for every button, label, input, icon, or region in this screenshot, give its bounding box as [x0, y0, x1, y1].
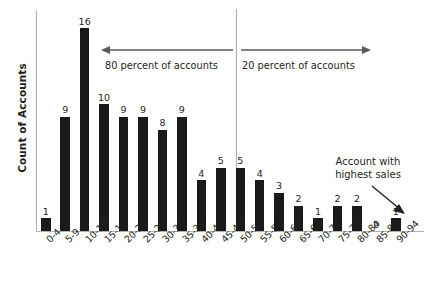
bar-20-24: [119, 117, 129, 231]
y-axis-title: Count of Accounts: [16, 48, 28, 188]
twenty-percent-arrow-icon: [241, 46, 371, 54]
bar-value-0-4: 1: [36, 206, 56, 217]
bar-value-30-34: 8: [152, 117, 172, 128]
bar-value-80-84: 2: [347, 193, 367, 204]
bar-value-25-29: 9: [133, 104, 153, 115]
bar-value-40-44: 4: [191, 168, 211, 179]
bar-value-50-54: 5: [230, 155, 250, 166]
bar-chart: Count of Accounts 80 percent of accounts…: [0, 0, 430, 281]
bar-15-19: [99, 104, 109, 231]
highest-sales-callout-line1: Account with: [313, 156, 423, 169]
bar-value-90-94: 1: [386, 206, 406, 217]
bar-10-14: [80, 28, 90, 231]
bar-value-60-64: 3: [269, 180, 289, 191]
eighty-percent-arrow-icon: [101, 46, 233, 54]
bar-35-39: [177, 117, 187, 231]
twenty-percent-label: 20 percent of accounts: [242, 60, 355, 71]
bar-5-9: [60, 117, 70, 231]
bar-value-35-39: 9: [172, 104, 192, 115]
bar-25-29: [138, 117, 148, 231]
bar-value-10-14: 16: [75, 16, 95, 27]
eighty-percent-label: 80 percent of accounts: [105, 60, 218, 71]
bar-value-75-79: 2: [328, 193, 348, 204]
bar-30-34: [158, 130, 168, 232]
bar-value-70-74: 1: [308, 206, 328, 217]
highest-sales-callout-line2: highest sales: [313, 169, 423, 182]
bar-value-15-19: 10: [94, 92, 114, 103]
bar-value-55-59: 4: [250, 168, 270, 179]
bar-value-65-69: 2: [289, 193, 309, 204]
bar-value-5-9: 9: [55, 104, 75, 115]
bar-value-45-49: 5: [211, 155, 231, 166]
bar-0-4: [41, 218, 51, 231]
bar-value-20-24: 9: [114, 104, 134, 115]
